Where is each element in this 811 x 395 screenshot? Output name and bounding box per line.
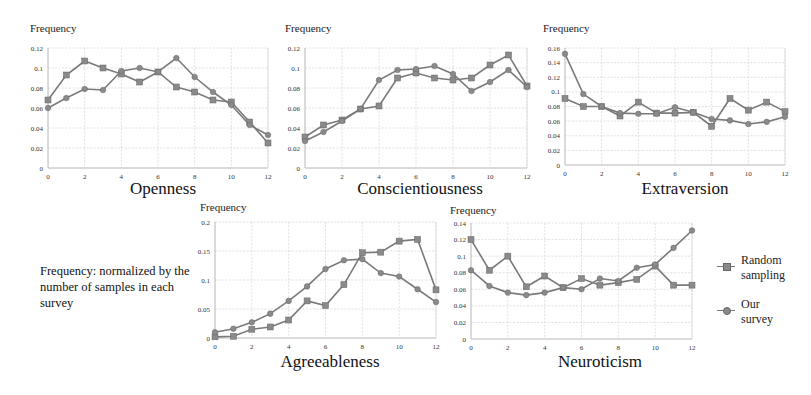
svg-text:2: 2 <box>600 170 604 178</box>
svg-text:12: 12 <box>689 344 697 352</box>
svg-text:0.04: 0.04 <box>288 125 301 133</box>
ylabel-conscientiousness: Frequency <box>285 22 331 34</box>
svg-text:0.02: 0.02 <box>454 319 467 327</box>
svg-text:0.12: 0.12 <box>288 45 301 53</box>
svg-text:6: 6 <box>673 170 677 178</box>
svg-text:2: 2 <box>83 173 87 181</box>
svg-text:0: 0 <box>46 173 50 181</box>
svg-text:12: 12 <box>524 173 532 181</box>
svg-text:0.08: 0.08 <box>548 103 561 111</box>
svg-text:0.02: 0.02 <box>548 147 561 155</box>
svg-text:0.04: 0.04 <box>454 302 467 310</box>
title-conscientiousness: Conscientiousness <box>330 179 510 199</box>
svg-text:0.15: 0.15 <box>198 248 211 256</box>
svg-text:8: 8 <box>617 344 621 352</box>
title-neuroticism: Neuroticism <box>540 352 660 372</box>
svg-text:0.02: 0.02 <box>31 145 44 153</box>
svg-text:4: 4 <box>287 343 291 351</box>
svg-text:0.1: 0.1 <box>291 65 300 73</box>
ylabel-extraversion: Frequency <box>543 22 589 34</box>
svg-text:0.2: 0.2 <box>201 219 210 227</box>
legend-label-line1: Our <box>741 297 811 312</box>
svg-text:0.14: 0.14 <box>454 220 467 228</box>
svg-text:8: 8 <box>710 170 714 178</box>
svg-text:12: 12 <box>265 173 273 181</box>
svg-text:0.12: 0.12 <box>31 45 44 53</box>
svg-text:10: 10 <box>228 173 236 181</box>
svg-text:2: 2 <box>250 343 254 351</box>
ylabel-agreeableness: Frequency <box>200 201 246 213</box>
legend-item-our-survey: Our survey <box>715 297 811 341</box>
legend: Random sampling Our survey <box>715 253 811 341</box>
plot-neuroticism: 00.020.040.060.080.10.120.14024681012 <box>454 220 696 353</box>
legend-label-line1: Random <box>741 253 811 268</box>
legend-label-line2: survey <box>741 312 811 327</box>
svg-text:0: 0 <box>297 165 301 173</box>
svg-text:0.12: 0.12 <box>454 236 467 244</box>
svg-text:0: 0 <box>557 162 561 170</box>
svg-text:0: 0 <box>563 170 567 178</box>
ylabel-neuroticism: Frequency <box>450 204 496 216</box>
svg-text:0.1: 0.1 <box>551 88 560 96</box>
svg-text:0.02: 0.02 <box>288 145 301 153</box>
svg-text:0: 0 <box>213 343 217 351</box>
title-extraversion: Extraversion <box>620 179 750 199</box>
svg-text:0.08: 0.08 <box>31 85 44 93</box>
svg-text:4: 4 <box>543 344 547 352</box>
svg-text:0: 0 <box>303 173 307 181</box>
svg-text:10: 10 <box>745 170 753 178</box>
svg-text:0.1: 0.1 <box>457 253 466 261</box>
svg-text:0.08: 0.08 <box>454 269 467 277</box>
svg-text:0.04: 0.04 <box>31 125 44 133</box>
svg-text:12: 12 <box>782 170 790 178</box>
plot-openness: 00.020.040.060.080.10.12024681012 <box>31 45 272 182</box>
svg-text:0.06: 0.06 <box>31 105 44 113</box>
svg-text:0.12: 0.12 <box>548 74 561 82</box>
svg-text:4: 4 <box>637 170 641 178</box>
svg-text:0.16: 0.16 <box>548 45 561 53</box>
svg-text:6: 6 <box>324 343 328 351</box>
svg-text:10: 10 <box>652 344 660 352</box>
circle-marker-icon <box>723 307 731 315</box>
svg-text:12: 12 <box>433 343 441 351</box>
svg-text:0.06: 0.06 <box>288 105 301 113</box>
svg-text:0: 0 <box>469 344 473 352</box>
svg-text:0: 0 <box>207 335 211 343</box>
title-agreeableness: Agreeableness <box>260 352 400 372</box>
svg-text:2: 2 <box>506 344 510 352</box>
plot-agreeableness: 00.050.10.150.2024681012 <box>198 219 440 352</box>
square-marker-icon <box>723 263 731 271</box>
svg-text:6: 6 <box>580 344 584 352</box>
normalization-note: Frequency: normalized by the number of s… <box>40 263 200 311</box>
svg-text:0.1: 0.1 <box>201 277 210 285</box>
svg-text:0.1: 0.1 <box>34 65 43 73</box>
svg-text:0.06: 0.06 <box>548 118 561 126</box>
title-openness: Openness <box>108 179 218 199</box>
svg-text:10: 10 <box>396 343 404 351</box>
svg-text:0.14: 0.14 <box>548 59 561 67</box>
plot-conscientiousness: 00.020.040.060.080.10.12024681012 <box>288 45 531 182</box>
svg-text:0.04: 0.04 <box>548 132 561 140</box>
svg-text:0: 0 <box>40 165 44 173</box>
legend-label-line2: sampling <box>741 268 811 283</box>
svg-text:0.06: 0.06 <box>454 286 467 294</box>
plot-extraversion: 00.020.040.060.080.10.120.140.1602468101… <box>548 45 789 179</box>
ylabel-openness: Frequency <box>30 22 76 34</box>
svg-text:0.08: 0.08 <box>288 85 301 93</box>
svg-text:8: 8 <box>361 343 365 351</box>
legend-item-random-sampling: Random sampling <box>715 253 811 297</box>
svg-text:0: 0 <box>463 336 467 344</box>
